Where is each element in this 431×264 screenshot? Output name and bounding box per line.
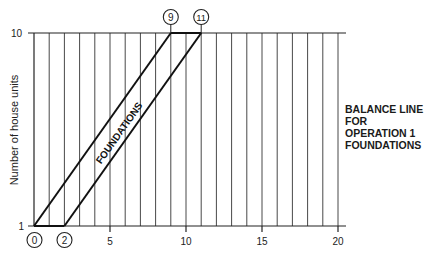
x-tick-5: 5 (107, 236, 113, 247)
x-tick-15: 15 (256, 236, 268, 247)
axes (28, 33, 346, 232)
caption-line-1: BALANCE LINE (345, 103, 423, 115)
chart-caption: BALANCE LINE FOR OPERATION 1 FOUNDATIONS (345, 103, 423, 151)
x-tick-10: 10 (180, 236, 192, 247)
band-label: FOUNDATIONS (94, 100, 145, 166)
marker-2: 2 (62, 235, 68, 246)
y-tick-10: 10 (11, 28, 23, 39)
marker-0: 0 (32, 235, 38, 246)
marker-9: 9 (168, 12, 174, 23)
caption-line-3: OPERATION 1 (345, 127, 423, 139)
tick-labels: 0 2 9 11 5 10 15 20 10 1 (11, 12, 344, 248)
marker-11: 11 (196, 12, 206, 23)
y-tick-1: 1 (18, 221, 24, 232)
y-axis-label: Number of house units (8, 75, 20, 186)
grid-lines (49, 33, 338, 226)
marker-stems (171, 24, 201, 33)
caption-line-2: FOR (345, 115, 423, 127)
caption-line-4: FOUNDATIONS (345, 139, 423, 151)
x-tick-20: 20 (332, 236, 344, 247)
